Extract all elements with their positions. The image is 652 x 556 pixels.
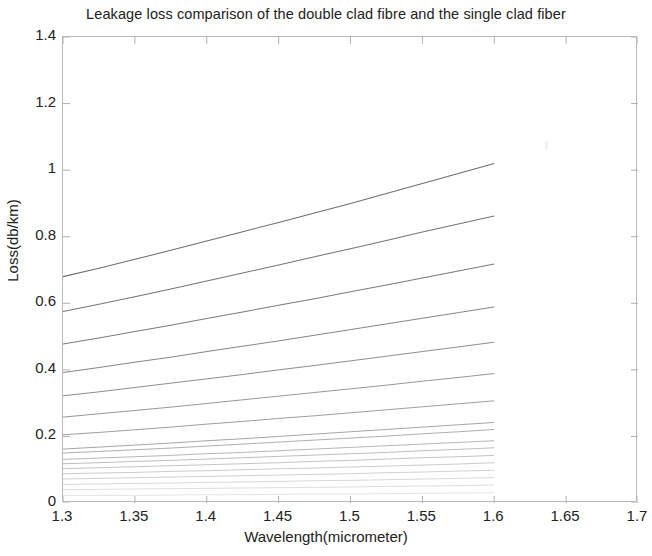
x-tick-label: 1.35: [99, 507, 169, 524]
data-curve: [63, 401, 494, 435]
data-curve: [63, 485, 494, 490]
x-tick-label: 1.5: [315, 507, 385, 524]
x-tick-label: 1.45: [243, 507, 313, 524]
y-tick-label: 0.4: [4, 359, 56, 376]
x-tick-label: 1.3: [27, 507, 97, 524]
y-tick-label: 1.2: [4, 93, 56, 110]
plot-lines-svg: [63, 37, 638, 503]
data-curve: [63, 429, 494, 453]
y-tick-label: 1.4: [4, 26, 56, 43]
chart-title: Leakage loss comparison of the double cl…: [0, 6, 652, 22]
data-curve: [63, 307, 494, 373]
x-tick-label: 1.7: [602, 507, 652, 524]
x-tick-label: 1.4: [171, 507, 241, 524]
x-tick-label: 1.6: [458, 507, 528, 524]
data-curve: [63, 163, 494, 276]
x-tick-label: 1.55: [386, 507, 456, 524]
data-curve: [63, 478, 494, 485]
image-artifact-speck: [545, 141, 548, 149]
x-axis-label: Wavelength(micrometer): [0, 528, 652, 545]
data-curve: [63, 216, 494, 312]
data-curve: [63, 422, 494, 449]
data-curve: [63, 264, 494, 344]
plot-area: [62, 36, 637, 502]
data-curve: [63, 374, 494, 418]
data-curve: [63, 493, 494, 496]
chart-figure: Leakage loss comparison of the double cl…: [0, 0, 652, 556]
data-curve: [63, 470, 494, 479]
y-tick-label: 0.2: [4, 425, 56, 442]
y-axis-label: Loss(db/km): [4, 141, 21, 341]
data-curve: [63, 342, 494, 396]
x-tick-label: 1.65: [530, 507, 600, 524]
